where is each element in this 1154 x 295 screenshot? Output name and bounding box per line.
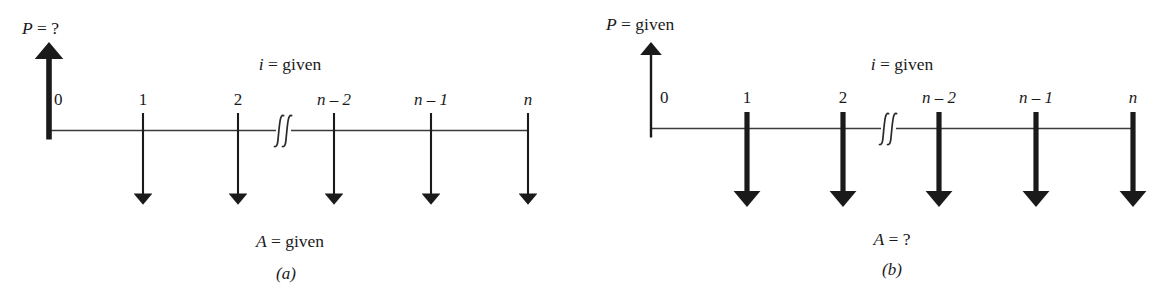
panel-b-tick-n-minus-1-text: n – 1 [1019, 88, 1053, 107]
panel-b-tick-0-text: 0 [660, 88, 669, 107]
panel-b-caption-text: (b) [882, 260, 902, 279]
panel-a-p-label-text: P = ? [22, 18, 59, 38]
panel-a-caption-text: (a) [276, 264, 296, 283]
panel-b-tick-2-text: 2 [839, 88, 848, 107]
panel-b-tick-n-minus-1: n – 1 [1019, 89, 1053, 106]
panel-b-p-label: P = given [606, 16, 674, 34]
cash-flow-diagram-svg [0, 0, 1154, 295]
panel-b-tick-1-text: 1 [743, 88, 752, 107]
panel-b-tick-0: 0 [660, 89, 669, 106]
panel-b-break-icon [880, 113, 897, 144]
panel-a-tick-n: n [524, 91, 533, 108]
panel-b-caption: (b) [882, 261, 902, 278]
panel-b-series-label: A = ? [873, 231, 910, 249]
panel-b-interest-label: i = given [871, 56, 933, 74]
panel-a-tick-2-text: 2 [234, 90, 243, 109]
panel-a-p-label: P = ? [22, 20, 59, 38]
panel-b-a-arrows [747, 112, 1133, 194]
panel-a-tick-1-text: 1 [139, 90, 148, 109]
panel-a-tick-1: 1 [139, 91, 148, 108]
panel-a-tick-n-minus-2-text: n – 2 [317, 90, 351, 109]
figure-root: P = ? i = given 0 1 2 n – 2 n – 1 n A = … [0, 0, 1154, 295]
panel-b-interest-label-text: i = given [871, 54, 933, 74]
panel-b-p-label-text: P = given [606, 14, 674, 34]
panel-a-series-label-text: A = given [256, 231, 324, 251]
panel-a-interest-label: i = given [259, 56, 321, 74]
panel-b-tick-n: n [1129, 89, 1138, 106]
panel-a-tick-n-minus-2: n – 2 [317, 91, 351, 108]
panel-a-break-icon [275, 115, 292, 146]
panel-a-graphics [49, 56, 528, 196]
panel-a-tick-2: 2 [234, 91, 243, 108]
panel-b-series-label-text: A = ? [873, 229, 910, 249]
panel-a-tick-0: 0 [54, 91, 63, 108]
panel-a-caption: (a) [276, 265, 296, 282]
panel-a-a-arrows [143, 113, 528, 196]
panel-b-tick-n-minus-2-text: n – 2 [922, 88, 956, 107]
panel-a-series-label: A = given [256, 233, 324, 251]
panel-b-tick-2: 2 [839, 89, 848, 106]
panel-a-tick-0-text: 0 [54, 90, 63, 109]
panel-a-interest-label-text: i = given [259, 54, 321, 74]
panel-a-tick-n-minus-1: n – 1 [414, 91, 448, 108]
panel-a-tick-n-text: n [524, 90, 533, 109]
panel-b-tick-n-minus-2: n – 2 [922, 89, 956, 106]
panel-b-tick-1: 1 [743, 89, 752, 106]
panel-b-tick-n-text: n [1129, 88, 1138, 107]
panel-a-tick-n-minus-1-text: n – 1 [414, 90, 448, 109]
